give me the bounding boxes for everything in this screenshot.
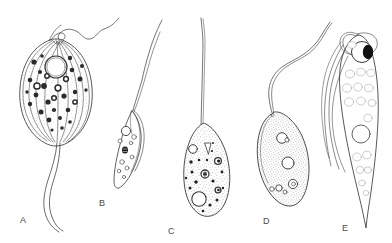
- figure-label-e: E: [342, 223, 349, 233]
- figure-label-c: C: [168, 226, 175, 236]
- specimen-b-drawing: [114, 20, 162, 188]
- figure-plate: A B C D E: [0, 0, 392, 243]
- figure-label-d: D: [263, 216, 270, 226]
- figure-illustration: [0, 0, 392, 243]
- figure-label-b: B: [99, 198, 106, 208]
- specimen-e-drawing: [322, 32, 379, 228]
- figure-label-a: A: [20, 215, 27, 225]
- specimen-c-drawing: [184, 18, 230, 216]
- specimen-d-drawing: [257, 22, 332, 206]
